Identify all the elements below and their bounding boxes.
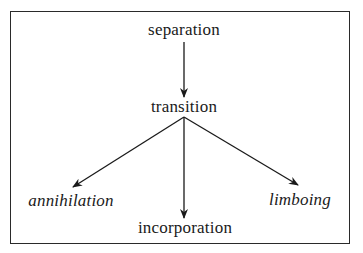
node-separation: separation bbox=[148, 21, 220, 38]
edge-transition-limboing bbox=[184, 117, 298, 185]
edge-transition-annihilation bbox=[73, 117, 184, 187]
node-limboing: limboing bbox=[269, 191, 331, 208]
node-annihilation: annihilation bbox=[28, 192, 114, 209]
node-incorporation: incorporation bbox=[138, 219, 232, 236]
node-transition: transition bbox=[151, 98, 217, 115]
